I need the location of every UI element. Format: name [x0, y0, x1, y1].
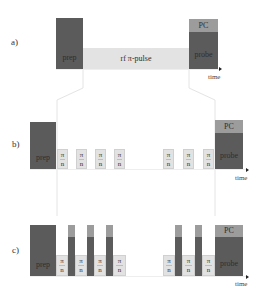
- rf-pulse-label: rf π-pulse: [83, 54, 189, 63]
- panel-c-time-label: time: [235, 280, 247, 288]
- interleaved-probe-block: [106, 237, 113, 276]
- pi-over-n-pulse: π n: [163, 149, 174, 169]
- pulse-numerator: π: [58, 151, 67, 159]
- pulse-denominator: n: [58, 160, 67, 168]
- pi-over-n-pulse: π n: [163, 255, 175, 276]
- pi-over-n-pulse: π n: [75, 255, 87, 276]
- panel-a-prep-block: prep: [56, 18, 83, 69]
- interleaved-pc-block: [106, 225, 113, 237]
- panel-b-pc-block: PC: [215, 120, 243, 133]
- pulse-numerator: π: [183, 257, 194, 265]
- panel-c-label: c): [12, 245, 19, 255]
- panel-a-time-axis: [56, 69, 220, 70]
- interleaved-probe-block: [195, 237, 202, 276]
- pulse-denominator: n: [164, 266, 174, 274]
- pulse-numerator: π: [57, 257, 67, 265]
- pulse-numerator: π: [96, 151, 105, 159]
- time-arrow-icon: [219, 67, 222, 71]
- pi-over-n-pulse: π n: [183, 149, 194, 169]
- panel-a-pc-block: PC: [189, 19, 218, 32]
- pulse-denominator: n: [203, 266, 214, 274]
- panel-a-time-label: time: [208, 73, 220, 81]
- probe-label: probe: [215, 151, 243, 160]
- panel-c-time-axis: [30, 276, 246, 277]
- pulse-denominator: n: [115, 160, 124, 168]
- pulse-denominator: n: [183, 266, 194, 274]
- panel-b-label: b): [12, 139, 20, 149]
- pulse-denominator: n: [204, 160, 213, 168]
- prep-label: prep: [30, 153, 56, 162]
- interleaved-probe-block: [175, 237, 182, 276]
- pi-over-n-pulse: π n: [202, 255, 215, 276]
- panel-a-label: a): [11, 37, 18, 47]
- pulse-numerator: π: [203, 257, 214, 265]
- pi-over-n-pulse: π n: [114, 149, 125, 169]
- probe-label: probe: [189, 50, 218, 59]
- pulse-denominator: n: [114, 266, 125, 274]
- pulse-denominator: n: [164, 160, 173, 168]
- pulse-denominator: n: [96, 160, 105, 168]
- panel-b-probe-block: probe: [215, 133, 243, 169]
- pc-label: PC: [215, 226, 243, 235]
- pi-over-n-pulse: π n: [113, 255, 126, 276]
- pi-over-n-pulse: π n: [203, 149, 214, 169]
- prep-label: prep: [30, 260, 56, 269]
- interleaved-pc-block: [87, 225, 94, 237]
- pulse-denominator: n: [184, 160, 193, 168]
- panel-c-pc-block: PC: [215, 225, 243, 237]
- panel-c-prep-block: prep: [30, 225, 56, 276]
- interleaved-pc-block: [68, 225, 75, 237]
- interleaved-pc-block: [175, 225, 182, 237]
- pi-over-n-pulse: π n: [95, 149, 106, 169]
- panel-b-time-axis: [30, 169, 246, 170]
- pulse-numerator: π: [114, 257, 125, 265]
- pulse-numerator: π: [76, 257, 86, 265]
- time-arrow-icon: [246, 275, 249, 279]
- pi-over-n-pulse: π n: [182, 255, 195, 276]
- pc-label: PC: [189, 21, 218, 30]
- pulse-numerator: π: [204, 151, 213, 159]
- pulse-numerator: π: [184, 151, 193, 159]
- interleaved-probe-block: [87, 237, 94, 276]
- pulse-numerator: π: [164, 151, 173, 159]
- pulse-denominator: n: [77, 160, 86, 168]
- pc-label: PC: [215, 122, 243, 131]
- panel-b-time-label: time: [235, 174, 247, 182]
- interleaved-pc-block: [195, 225, 202, 237]
- pulse-denominator: n: [95, 266, 105, 274]
- pulse-numerator: π: [77, 151, 86, 159]
- pi-over-n-pulse: π n: [57, 149, 68, 169]
- pi-over-n-pulse: π n: [94, 255, 106, 276]
- pulse-numerator: π: [95, 257, 105, 265]
- pulse-denominator: n: [57, 266, 67, 274]
- interleaved-probe-block: [68, 237, 75, 276]
- pi-over-n-pulse: π n: [76, 149, 87, 169]
- probe-label: probe: [215, 259, 243, 268]
- time-arrow-icon: [246, 168, 249, 172]
- panel-a-rf-pulse-block: rf π-pulse: [83, 48, 189, 69]
- pulse-denominator: n: [76, 266, 86, 274]
- pulse-numerator: π: [164, 257, 174, 265]
- pulse-numerator: π: [115, 151, 124, 159]
- prep-label: prep: [56, 53, 83, 62]
- panel-c-probe-block: probe: [215, 237, 243, 276]
- pi-over-n-pulse: π n: [56, 255, 68, 276]
- panel-a-probe-block: probe: [189, 32, 218, 69]
- panel-b-prep-block: prep: [30, 122, 56, 169]
